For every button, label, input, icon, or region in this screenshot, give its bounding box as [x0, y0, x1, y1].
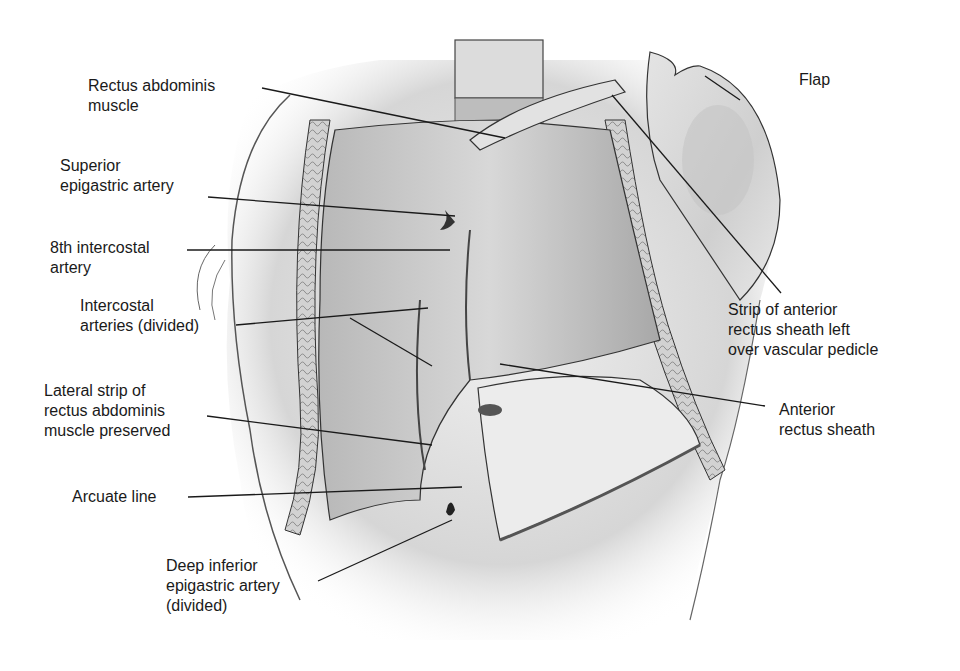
label-deep-inferior-epigastric-artery: Deep inferiorepigastric artery(divided)	[166, 556, 280, 616]
label-flap: Flap	[799, 70, 830, 90]
label-8th-intercostal-artery: 8th intercostalartery	[50, 238, 150, 278]
label-arcuate-line: Arcuate line	[72, 487, 157, 507]
label-strip-anterior-rectus-sheath: Strip of anteriorrectus sheath leftover …	[728, 300, 878, 360]
label-superior-epigastric-artery: Superiorepigastric artery	[60, 156, 174, 196]
label-lateral-strip: Lateral strip ofrectus abdominismuscle p…	[44, 381, 170, 441]
anatomy-figure: Rectus abdominismuscle Superiorepigastri…	[0, 0, 960, 671]
label-anterior-rectus-sheath: Anteriorrectus sheath	[779, 400, 875, 440]
label-rectus-abdominis: Rectus abdominismuscle	[88, 76, 215, 116]
label-intercostal-arteries-divided: Intercostalarteries (divided)	[80, 296, 199, 336]
